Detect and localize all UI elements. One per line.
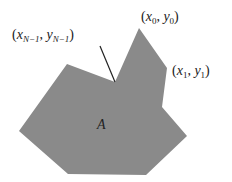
polygon-area [19,28,187,175]
label-vertex-1: (x1, y1) [172,64,210,80]
label-area-A: A [97,118,106,132]
label-vertex-0: (x0, y0) [141,10,179,26]
label-vertex-N-minus-1: (xN−1, yN−1) [12,28,74,44]
leader-line [100,46,115,82]
